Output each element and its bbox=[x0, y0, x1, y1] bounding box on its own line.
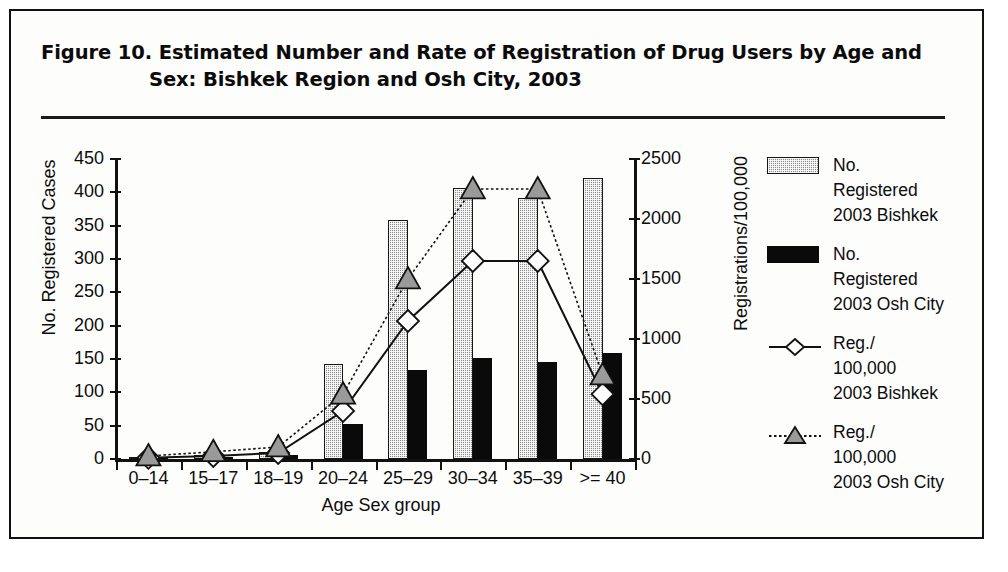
legend-item: No.Registered2003 Osh City bbox=[767, 242, 982, 317]
y-tick-label-right: 500 bbox=[641, 389, 711, 407]
marker-triangle-osh-city bbox=[461, 177, 485, 198]
legend-key bbox=[767, 157, 825, 177]
chart-legend: No.Registered2003 BishkekNo.Registered20… bbox=[767, 153, 982, 509]
legend-label-line: 100,000 bbox=[833, 356, 982, 381]
line-rate-osh-city bbox=[148, 189, 602, 456]
legend-item: Reg./100,0002003 Bishkek bbox=[767, 331, 982, 406]
legend-triangle-line-icon bbox=[767, 424, 825, 446]
marker-triangle-osh-city bbox=[201, 440, 225, 461]
y-tick-label-left: 50 bbox=[44, 416, 104, 434]
legend-label: No.Registered2003 Bishkek bbox=[833, 153, 982, 228]
marker-diamond-bishkek bbox=[527, 250, 549, 272]
legend-label-line: 100,000 bbox=[833, 445, 982, 470]
legend-key bbox=[767, 424, 825, 444]
y-tick-label-left: 100 bbox=[44, 382, 104, 400]
y-tick-label-right: 2000 bbox=[641, 209, 711, 227]
legend-item: No.Registered2003 Bishkek bbox=[767, 153, 982, 228]
x-tick-label: >= 40 bbox=[560, 468, 646, 488]
y-tick-label-right: 0 bbox=[641, 449, 711, 467]
legend-label: Reg./100,0002003 Bishkek bbox=[833, 331, 982, 406]
legend-label: Reg./100,0002003 Osh City bbox=[833, 420, 982, 495]
y-tick-label-right: 1500 bbox=[641, 269, 711, 287]
legend-label-line: 2003 Bishkek bbox=[833, 203, 982, 228]
y-tick-label-right: 1000 bbox=[641, 329, 711, 347]
plot-area bbox=[116, 159, 635, 459]
line-rate-bishkek bbox=[148, 261, 602, 458]
y-tick-label-right: 2500 bbox=[641, 149, 711, 167]
legend-label-line: 2003 Osh City bbox=[833, 470, 982, 495]
legend-label-line: Reg./ bbox=[833, 331, 982, 356]
marker-diamond-bishkek bbox=[592, 383, 614, 405]
legend-item: Reg./100,0002003 Osh City bbox=[767, 420, 982, 495]
legend-label-line: 2003 Bishkek bbox=[833, 381, 982, 406]
marker-triangle-osh-city bbox=[331, 382, 355, 403]
legend-label-line: No. bbox=[833, 153, 982, 178]
legend-label-line: 2003 Osh City bbox=[833, 292, 982, 317]
y-axis-left-title: No. Registered Cases bbox=[39, 118, 60, 378]
legend-label: No.Registered2003 Osh City bbox=[833, 242, 982, 317]
legend-label-line: Reg./ bbox=[833, 420, 982, 445]
legend-key bbox=[767, 335, 825, 355]
y-axis-right-title: Registrations/100,000 bbox=[731, 114, 752, 374]
line-series-layer bbox=[116, 159, 635, 459]
marker-triangle-osh-city bbox=[266, 435, 290, 456]
y-tick-label-left: 0 bbox=[44, 449, 104, 467]
marker-triangle-osh-city bbox=[591, 363, 615, 384]
marker-triangle-osh-city bbox=[396, 267, 420, 288]
legend-swatch-bishkek-icon bbox=[767, 157, 819, 174]
legend-diamond-line-icon bbox=[767, 335, 825, 357]
legend-label-line: No. bbox=[833, 242, 982, 267]
legend-label-line: Registered bbox=[833, 267, 982, 292]
legend-label-line: Registered bbox=[833, 178, 982, 203]
marker-triangle-osh-city bbox=[526, 177, 550, 198]
figure-frame: Figure 10. Estimated Number and Rate of … bbox=[9, 9, 984, 539]
x-axis-title: Age Sex group bbox=[241, 495, 521, 516]
legend-key bbox=[767, 246, 825, 266]
legend-swatch-osh-icon bbox=[767, 246, 819, 263]
